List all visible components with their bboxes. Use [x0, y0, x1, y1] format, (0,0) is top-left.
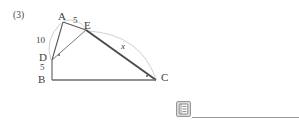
segment-de: [52, 30, 86, 60]
segment-ad: [52, 22, 63, 60]
vertex-label-a: A: [58, 11, 66, 22]
vertex-label-c: C: [161, 72, 168, 83]
segment-label-db: 5: [40, 63, 45, 72]
page-root: (3) A E D B C 10 5 5 x: [0, 0, 299, 129]
segment-label-ad: 10: [36, 36, 45, 45]
document-icon[interactable]: [176, 101, 191, 117]
angle-mark-c: [146, 75, 148, 77]
bottom-bar: [176, 101, 299, 121]
segment-ec: [86, 30, 156, 80]
segment-label-ec-variable: x: [121, 42, 125, 51]
angle-mark-d: [58, 54, 60, 56]
vertex-label-b: B: [38, 74, 45, 85]
vertex-label-e: E: [84, 20, 91, 31]
segment-label-ae: 5: [73, 16, 78, 25]
answer-rule-line: [192, 117, 299, 118]
